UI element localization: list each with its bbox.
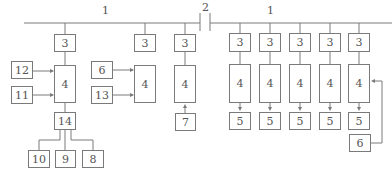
bus-label-left: 1 bbox=[102, 4, 109, 17]
block-r4b: 4 bbox=[259, 64, 281, 103]
block-r5a: 5 bbox=[229, 112, 251, 130]
block-r3a: 3 bbox=[229, 33, 251, 52]
block-l4b: 4 bbox=[134, 65, 156, 103]
block-l3a: 3 bbox=[54, 34, 76, 52]
block-r5b: 5 bbox=[259, 112, 281, 130]
block-n7: 7 bbox=[175, 113, 196, 131]
block-n13: 13 bbox=[91, 86, 113, 104]
block-r3d: 3 bbox=[319, 33, 341, 52]
block-r4e: 4 bbox=[348, 64, 370, 103]
breaker-label: 2 bbox=[202, 1, 209, 14]
block-l3b: 3 bbox=[134, 34, 156, 52]
block-l3c: 3 bbox=[174, 34, 196, 52]
bus-label-right: 1 bbox=[267, 4, 274, 17]
block-r3e: 3 bbox=[348, 33, 370, 52]
block-n8: 8 bbox=[82, 150, 104, 168]
block-r4c: 4 bbox=[289, 64, 311, 103]
block-l4a: 4 bbox=[54, 65, 76, 103]
block-n6b: 6 bbox=[349, 134, 371, 152]
block-r5d: 5 bbox=[319, 112, 341, 130]
block-n11: 11 bbox=[11, 86, 33, 104]
block-n14: 14 bbox=[54, 112, 76, 130]
block-r4a: 4 bbox=[229, 64, 251, 103]
block-r4d: 4 bbox=[319, 64, 341, 103]
block-r5c: 5 bbox=[289, 112, 311, 130]
block-n12: 12 bbox=[11, 61, 33, 79]
block-r3b: 3 bbox=[259, 33, 281, 52]
block-r5e: 5 bbox=[348, 112, 370, 130]
block-l4c: 4 bbox=[174, 65, 196, 103]
block-n10: 10 bbox=[28, 150, 50, 168]
block-n9: 9 bbox=[55, 150, 76, 168]
block-r3c: 3 bbox=[289, 33, 311, 52]
block-n6a: 6 bbox=[91, 61, 113, 79]
